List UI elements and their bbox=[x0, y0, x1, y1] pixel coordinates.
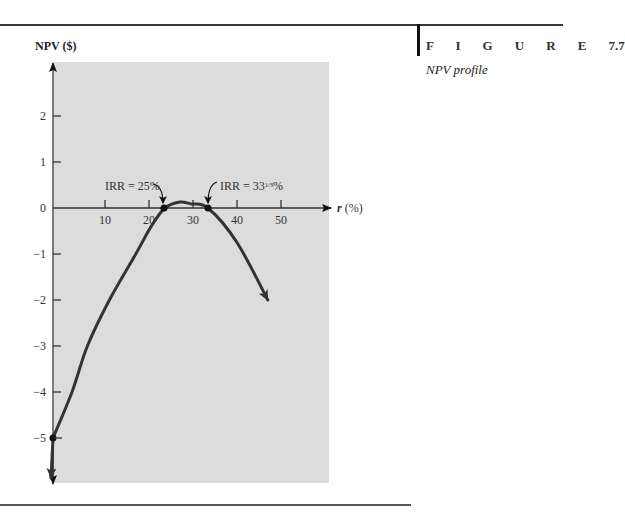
x-tick-label: 50 bbox=[275, 213, 287, 227]
y-tick-label: −1 bbox=[33, 247, 46, 261]
bottom-rule bbox=[0, 504, 411, 506]
npv-curve-lower-tail bbox=[51, 438, 53, 478]
y-tick-label: −2 bbox=[33, 293, 46, 307]
point-irr-33 bbox=[205, 205, 212, 212]
y-tick-label: 1 bbox=[40, 155, 46, 169]
y-tick-label: −3 bbox=[33, 339, 46, 353]
x-tick-label: 10 bbox=[99, 213, 111, 227]
y-tick-label: 0 bbox=[40, 201, 46, 215]
y-tick-label: 2 bbox=[40, 109, 46, 123]
x-tick-label: 30 bbox=[187, 213, 199, 227]
y-tick-label: −5 bbox=[33, 431, 46, 445]
plot-background bbox=[54, 62, 329, 483]
figure-number: 7.7 bbox=[608, 38, 624, 53]
irr-33-label: IRR = 331⁄3% bbox=[220, 179, 283, 193]
y-tick-label: −4 bbox=[33, 385, 46, 399]
point-irr-25 bbox=[161, 205, 168, 212]
irr-25-label: IRR = 25% bbox=[105, 179, 160, 193]
x-tick-label: 40 bbox=[231, 213, 243, 227]
